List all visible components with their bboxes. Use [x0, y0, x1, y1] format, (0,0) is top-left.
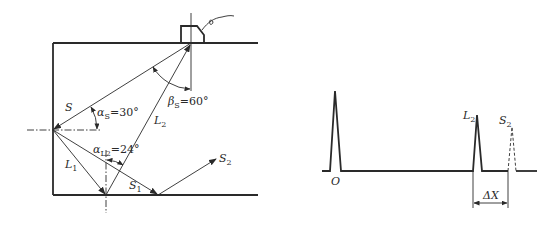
label-alpha-s: αS=30° [97, 106, 139, 121]
figure-canvas: S αS=30° βS=60° L2 αL2=24° L1 S1 S2 O L2… [0, 0, 557, 229]
label-s: S [65, 101, 73, 114]
ascan-trace [322, 91, 508, 171]
label-s2-peak: S2 [499, 114, 512, 129]
probe-icon [181, 26, 204, 43]
probe-cable-icon [202, 16, 234, 30]
label-s1: S1 [129, 179, 142, 194]
ascan-s2-peak-dashed [508, 127, 516, 171]
label-l1: L1 [64, 158, 77, 173]
label-l2: L2 [153, 114, 166, 129]
label-beta-s: βS=60° [167, 95, 209, 110]
ray-s2 [158, 159, 216, 195]
label-origin: O [331, 175, 340, 188]
label-delta-x: ΔX [482, 189, 500, 202]
label-l2-peak: L2 [462, 109, 475, 124]
block-diagram: S αS=30° βS=60° L2 αL2=24° L1 S1 S2 [27, 13, 258, 213]
label-alpha-l2: αL2=24° [93, 143, 140, 158]
label-s2: S2 [219, 152, 232, 167]
ray-l1 [53, 130, 105, 194]
ray-l2 [106, 45, 190, 195]
ascan-display: O L2 S2 ΔX [322, 91, 537, 208]
